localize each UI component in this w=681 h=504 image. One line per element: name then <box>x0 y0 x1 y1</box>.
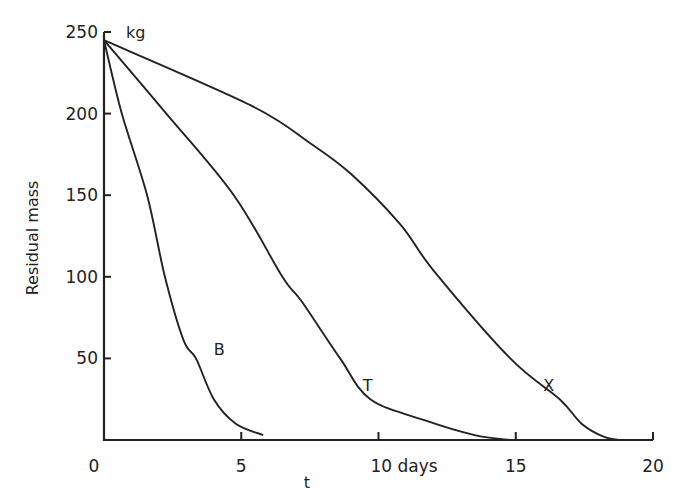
y-tick-label: 150 <box>66 185 98 205</box>
series-label-b: B <box>214 340 225 359</box>
x-tick-label: 20 <box>642 456 664 476</box>
y-tick-label: 50 <box>76 348 98 368</box>
labels: BTX <box>214 340 554 395</box>
residual-mass-chart: 501001502002500510 days1520 BTX kg t Res… <box>0 0 681 504</box>
x-axis-title: t <box>304 473 310 492</box>
series-label-x: X <box>543 376 554 395</box>
y-tick-label: 100 <box>66 267 98 287</box>
curve-t <box>104 40 510 440</box>
x-tick-label: 10 days <box>371 456 438 476</box>
x-tick-label: 5 <box>236 456 247 476</box>
axes <box>104 32 653 440</box>
y-axis-title: Residual mass <box>23 181 42 296</box>
axis-lines <box>104 32 653 440</box>
ticks: 501001502002500510 days1520 <box>66 22 664 476</box>
y-unit-label: kg <box>126 23 145 42</box>
series-label-t: T <box>362 376 373 395</box>
y-tick-label: 250 <box>66 22 98 42</box>
x-tick-label: 15 <box>505 456 527 476</box>
y-tick-label: 200 <box>66 104 98 124</box>
x-tick-label: 0 <box>89 456 100 476</box>
